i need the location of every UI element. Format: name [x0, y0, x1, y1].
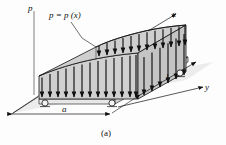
figure-caption: (a): [101, 128, 111, 138]
figure-container: p p = p (x) x y l a (a): [0, 0, 226, 145]
load-function-label: p = p (x): [49, 10, 81, 20]
y-axis-label: y: [205, 82, 209, 92]
length-l-label: l: [166, 72, 169, 82]
load-function-leader: [71, 22, 96, 47]
x-axis-label: x: [172, 9, 176, 19]
engineering-diagram: [0, 0, 226, 145]
width-a-label: a: [62, 104, 67, 114]
p-axis-label: p: [28, 3, 33, 13]
